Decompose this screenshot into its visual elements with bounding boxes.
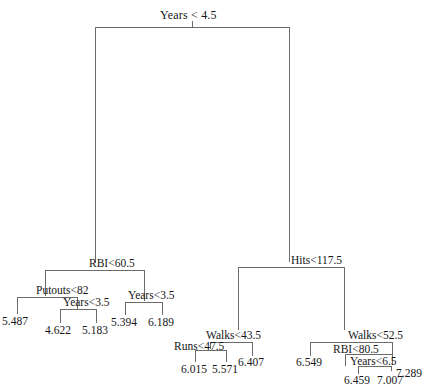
leaf-value-4-622: 4.622	[45, 325, 71, 337]
node-label-walks-52-5: Walks<52.5	[348, 330, 403, 342]
leaf-value-6-015: 6.015	[181, 364, 207, 376]
node-label-putouts-82: Putouts<82	[36, 285, 89, 297]
node-label-root: Years < 4.5	[160, 9, 217, 21]
leaf-value-5-394: 5.394	[111, 317, 137, 329]
leaf-value-5-571: 5.571	[212, 364, 238, 376]
leaf-value-5-183: 5.183	[82, 325, 108, 337]
leaf-value-6-459: 6.459	[344, 375, 370, 387]
node-label-years-3-5-left: Years<3.5	[63, 297, 110, 309]
leaf-value-7-289: 7.289	[396, 368, 422, 380]
leaf-value-5-487: 5.487	[2, 316, 28, 328]
node-label-years-6-5: Years<6.5	[350, 356, 397, 368]
leaf-value-6-549: 6.549	[296, 357, 322, 369]
node-label-hits-117-5: Hits<117.5	[291, 255, 342, 267]
leaf-value-6-407: 6.407	[238, 357, 264, 369]
node-label-runs-47-5: Runs<47.5	[174, 341, 224, 353]
node-label-years-3-5-right: Years<3.5	[128, 290, 175, 302]
leaf-value-6-189: 6.189	[148, 317, 174, 329]
node-label-rbi-60-5: RBI<60.5	[89, 258, 135, 270]
decision-tree-figure: Years < 4.5 RBI<60.5 Putouts<82 Years<3.…	[0, 0, 424, 387]
node-label-rbi-80-5: RBI<80.5	[333, 344, 379, 356]
